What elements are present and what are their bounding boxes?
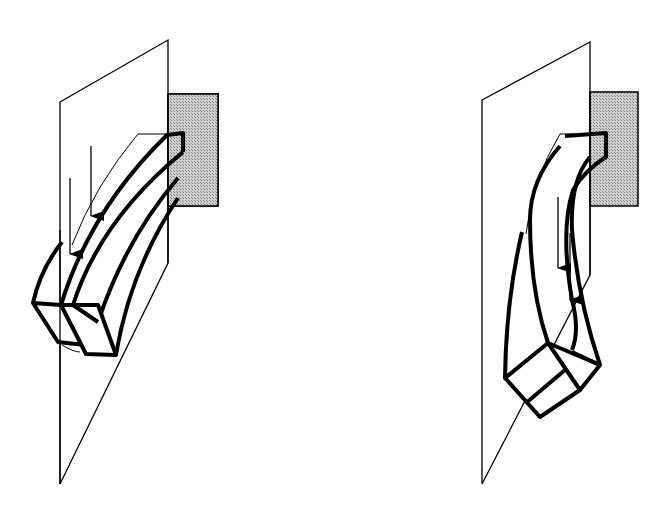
panel-left [33, 40, 218, 484]
wall-block-right [590, 92, 638, 206]
panel-right [482, 42, 638, 484]
diagram-figure: Two schematic panels showing a cantileve… [0, 0, 668, 506]
